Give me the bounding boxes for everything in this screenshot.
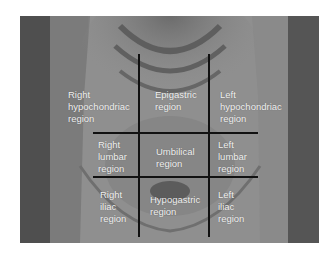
- vertical-line-right: [208, 54, 210, 237]
- vertical-line-left: [138, 54, 140, 237]
- horizontal-line-lower: [93, 176, 258, 178]
- horizontal-line-upper: [93, 132, 258, 134]
- label-right-hypochondriac: Right hypochondriac region: [68, 89, 130, 125]
- label-epigastric: Epigastric region: [155, 89, 197, 113]
- label-right-lumbar: Right lumbar region: [98, 139, 127, 175]
- label-umbilical: Umbilical region: [156, 146, 195, 170]
- label-hypogastric: Hypogastric region: [150, 194, 200, 218]
- label-left-hypochondriac: Left hypochondriac region: [220, 89, 282, 125]
- label-right-iliac: Right iliac region: [100, 189, 126, 225]
- label-left-iliac: Left iliac region: [218, 189, 244, 225]
- label-left-lumbar: Left lumbar region: [218, 139, 247, 175]
